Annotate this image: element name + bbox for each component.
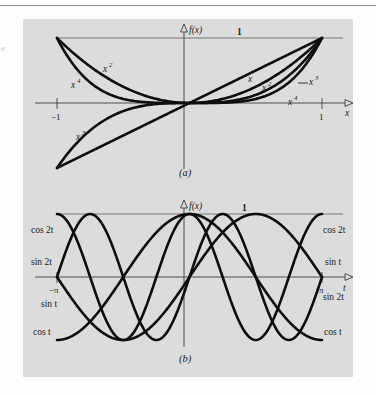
panel-b-left-label-cos2t: cos 2t xyxy=(31,225,54,235)
panel-b-y-axis-label: f(x) xyxy=(189,201,202,212)
panel-b-right-label-cost: cos t xyxy=(324,327,342,337)
panel-a-y-axis-arrow xyxy=(181,24,188,32)
panel-a-label-x2-left: x 2 xyxy=(102,61,113,74)
figure-gray-panel: 1 f(x) x −1 1 x 2 x 4 x 3 x x xyxy=(23,19,353,377)
panel-b-tick-label-minus-pi: −π xyxy=(49,285,59,295)
figure-root: e 1 f(x) x − xyxy=(0,0,376,395)
panel-b-right-label-sint: sin t xyxy=(325,257,341,267)
panel-a-plot: 1 f(x) x −1 1 x 2 x 4 x 3 x x xyxy=(23,19,353,184)
panel-a-x-axis-label: x xyxy=(344,108,350,118)
curve-a-x2 xyxy=(57,38,322,103)
margin-mark: e xyxy=(1,44,8,53)
panel-a-tick-label-plus1: 1 xyxy=(319,112,324,122)
svg-text:x: x xyxy=(308,77,314,87)
svg-text:x: x xyxy=(75,132,81,142)
panel-b-caption: (b) xyxy=(179,353,192,365)
panel-a-x-axis-arrow xyxy=(345,100,353,107)
panel-a-label-x4-right: x 4 xyxy=(287,94,298,107)
svg-text:4: 4 xyxy=(77,77,81,84)
panel-a-label-x4-left: x 4 xyxy=(70,77,81,90)
svg-text:x: x xyxy=(102,64,108,74)
panel-b-left-label-cost: cos t xyxy=(33,327,51,337)
panel-a-tick-label-minus1: −1 xyxy=(51,112,61,122)
panel-a-unit-label: 1 xyxy=(237,27,242,37)
svg-text:3: 3 xyxy=(314,74,319,81)
svg-text:x: x xyxy=(247,74,253,84)
svg-text:x: x xyxy=(287,97,293,107)
panel-b-y-axis-arrow xyxy=(181,200,188,208)
page-top-rule xyxy=(0,5,376,6)
panel-b-right-label-cos2t: cos 2t xyxy=(323,225,346,235)
svg-text:x: x xyxy=(261,83,267,93)
panel-b-plot: 1 f(x) t −π π cos 2t sin 2t sin t cos t … xyxy=(23,197,353,377)
panel-a-label-x-right: x xyxy=(247,74,253,84)
panel-b-t-axis-arrow xyxy=(345,274,353,281)
svg-text:2: 2 xyxy=(268,80,272,87)
svg-text:4: 4 xyxy=(294,94,298,101)
panel-b-left-label-sin2t: sin 2t xyxy=(31,257,52,267)
panel-a-label-x3-right: x 3 xyxy=(298,74,319,87)
svg-text:3: 3 xyxy=(81,129,86,136)
panel-b-right-label-sin2t: sin 2t xyxy=(323,292,344,302)
panel-b-unit-label: 1 xyxy=(242,203,247,213)
panel-a-y-axis-label: f(x) xyxy=(189,25,202,36)
panel-b-left-label-sint: sin t xyxy=(41,299,57,309)
svg-text:2: 2 xyxy=(109,61,113,68)
panel-a-caption: (a) xyxy=(179,167,192,179)
svg-text:x: x xyxy=(70,80,76,90)
